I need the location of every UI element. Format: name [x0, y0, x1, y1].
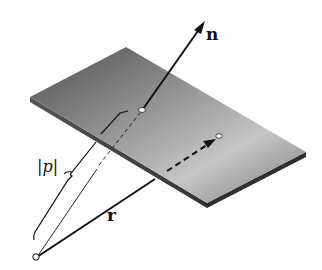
- plane-vector-diagram: [0, 0, 322, 270]
- plane-plate: [30, 47, 306, 208]
- plane-point: [216, 134, 222, 139]
- origin-point: [33, 254, 39, 260]
- normal-vector-arrowhead: [194, 21, 205, 34]
- normal-vector-label: n: [206, 24, 218, 44]
- position-vector-line: [37, 179, 155, 257]
- distance-label: |p|: [37, 157, 58, 176]
- position-vector-label: r: [107, 205, 116, 225]
- perpendicular-foot-point: [139, 108, 146, 113]
